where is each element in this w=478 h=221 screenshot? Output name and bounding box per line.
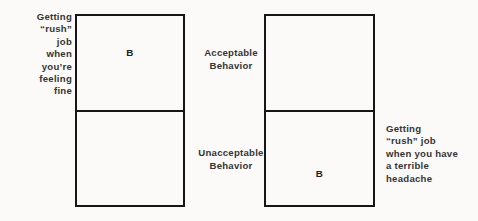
cell-mark-left-top: B — [126, 47, 133, 58]
left-box-top-cell: B — [77, 16, 183, 110]
caption-right-condition: Getting “rush” job when you have a terri… — [386, 123, 478, 185]
behavior-matrix-figure: Getting “rush” job when you’re feeling f… — [0, 0, 478, 221]
left-matrix-box: B — [75, 14, 185, 207]
right-box-top-cell — [266, 16, 373, 110]
left-box-bottom-cell — [77, 112, 183, 205]
right-matrix-box: B — [264, 14, 375, 207]
label-unacceptable-behavior: Unacceptable Behavior — [190, 146, 272, 173]
right-box-bottom-cell: B — [266, 112, 373, 205]
label-acceptable-behavior: Acceptable Behavior — [190, 46, 272, 73]
cell-mark-right-bottom: B — [316, 168, 323, 179]
caption-left-condition: Getting “rush” job when you’re feeling f… — [4, 11, 72, 98]
